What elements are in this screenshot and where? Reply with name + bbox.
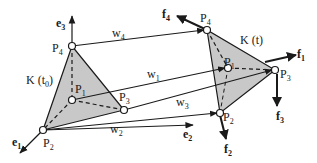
f1-force (265, 55, 296, 62)
current-p3-label: P3 (280, 67, 291, 83)
rigid-body-displacement-diagram: e3 e1 e2 P4 P1 P3 P2 P4 P1 P3 P2 K (t0) … (0, 0, 317, 163)
w4-label: w4 (112, 26, 125, 42)
w3-label: w3 (176, 95, 189, 111)
f1-label: f1 (297, 47, 305, 63)
initial-p1-marker (69, 97, 76, 104)
initial-tetrahedron (43, 46, 124, 130)
current-p4-label: P4 (200, 11, 211, 27)
current-p2-label: P2 (223, 110, 234, 126)
initial-body-label: K (t0) (26, 73, 53, 89)
initial-p4-label: P4 (52, 41, 63, 57)
e1-axis (20, 130, 43, 153)
initial-p4-marker (69, 43, 76, 50)
w2-label: w2 (110, 122, 123, 138)
initial-p2-label: P2 (43, 136, 54, 152)
e2-label: e2 (183, 127, 192, 143)
f3-label: f3 (276, 109, 284, 125)
labels: e3 e1 e2 P4 P1 P3 P2 P4 P1 P3 P2 K (t0) … (12, 7, 305, 158)
f4-label: f4 (162, 7, 170, 23)
w4-vector (72, 30, 204, 46)
initial-p3-marker (121, 107, 128, 114)
e1-label: e1 (12, 135, 21, 151)
initial-p2-marker (40, 127, 47, 134)
w1-label: w1 (147, 67, 160, 83)
f2-label: f2 (224, 142, 232, 158)
current-p4-marker (204, 27, 211, 34)
current-p3-marker (272, 67, 279, 74)
initial-p3-label: P3 (119, 90, 130, 106)
e3-label: e3 (56, 16, 65, 32)
current-body-label: K (t) (240, 33, 263, 47)
